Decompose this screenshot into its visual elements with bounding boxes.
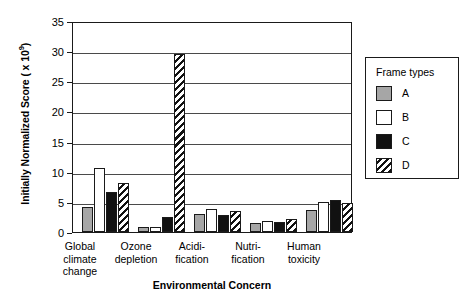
y-axis-title: Initially Normalized Score ( x 109) [17,16,31,232]
bar-acidification-A [194,214,205,232]
bar-global-climate-change-A [82,207,93,232]
y-axis-title-suffix: ) [19,43,31,46]
y-tick-label-5: 5 [40,198,64,209]
legend-swatch-A-icon [376,86,392,101]
bar-ozone-depletion-B [150,227,161,232]
bar-nutrification-B [262,221,273,233]
bar-group-global-climate-change [81,23,133,232]
bar-acidification-D [230,211,241,232]
bar-human-toxicity-B [318,202,329,232]
legend-swatch-B-icon [376,110,392,125]
x-tick-label-human-toxicity: Human toxicity [267,240,341,265]
y-tickmark-0 [67,233,72,234]
legend-swatch-D-icon [376,158,392,173]
x-tick-label-line: toxicity [267,253,341,266]
bar-group-human-toxicity [305,23,357,232]
bar-global-climate-change-C [106,192,117,232]
y-tick-label-10: 10 [40,168,64,179]
bar-nutrification-C [274,222,285,232]
bar-human-toxicity-D [342,203,353,232]
y-axis-title-text: Initially Normalized Score ( x 10 [19,50,31,204]
x-tick-label-line: Human [267,240,341,253]
y-tick-label-15: 15 [40,138,64,149]
bar-global-climate-change-D [118,183,129,232]
bar-chart-figure: Initially Normalized Score ( x 109) 0 5 … [0,0,466,296]
legend-swatch-C-icon [376,134,392,149]
y-tick-label-25: 25 [40,77,64,88]
legend-label-A: A [402,87,409,99]
y-axis-title-exponent: 9 [17,46,26,50]
y-tick-label-35: 35 [40,17,64,28]
bar-group-nutrification [249,23,301,232]
bar-nutrification-D [286,219,297,232]
y-tick-label-30: 30 [40,47,64,58]
y-tick-label-20: 20 [40,107,64,118]
chart-legend: Frame types A B C D [365,57,459,179]
bar-global-climate-change-B [94,168,105,233]
bar-ozone-depletion-D [174,54,185,232]
bar-ozone-depletion-A [138,227,149,232]
bar-nutrification-A [250,223,261,232]
legend-label-D: D [402,159,410,171]
x-axis-title: Environmental Concern [72,279,352,291]
bar-ozone-depletion-C [162,217,173,232]
bar-group-ozone-depletion [137,23,189,232]
bar-human-toxicity-C [330,200,341,232]
y-tick-label-0: 0 [40,228,64,239]
bar-group-acidification [193,23,245,232]
bar-human-toxicity-A [306,210,317,232]
plot-area [72,22,352,233]
legend-label-C: C [402,135,410,147]
x-tick-label-line: change [43,265,117,278]
bar-acidification-B [206,209,217,232]
bar-acidification-C [218,215,229,233]
legend-label-B: B [402,111,409,123]
legend-title: Frame types [376,66,434,78]
